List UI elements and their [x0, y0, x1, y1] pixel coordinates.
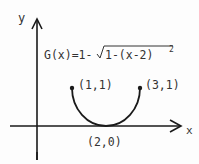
equation: G(x)=1- 1-(x-2) 2 — [44, 45, 174, 62]
point-label-right: (3,1) — [145, 78, 180, 92]
equation-prefix: G(x)=1- — [44, 48, 92, 62]
y-axis — [32, 19, 42, 160]
left-endpoint-dot — [70, 86, 74, 90]
function-curve — [72, 88, 140, 126]
y-axis-label: y — [18, 11, 25, 25]
point-label-left: (1,1) — [78, 78, 113, 92]
graph-svg: y x G(x)=1- 1-(x-2) 2 (1,1) (3,1) (2,0) — [0, 0, 199, 164]
right-endpoint-dot — [138, 86, 142, 90]
function-graph-diagram: y x G(x)=1- 1-(x-2) 2 (1,1) (3,1) (2,0) — [0, 0, 199, 164]
x-axis — [10, 120, 181, 132]
point-label-vertex: (2,0) — [87, 135, 122, 149]
equation-radicand: 1-(x-2) — [105, 48, 153, 62]
equation-exponent: 2 — [169, 45, 174, 54]
x-axis-label: x — [186, 124, 193, 137]
